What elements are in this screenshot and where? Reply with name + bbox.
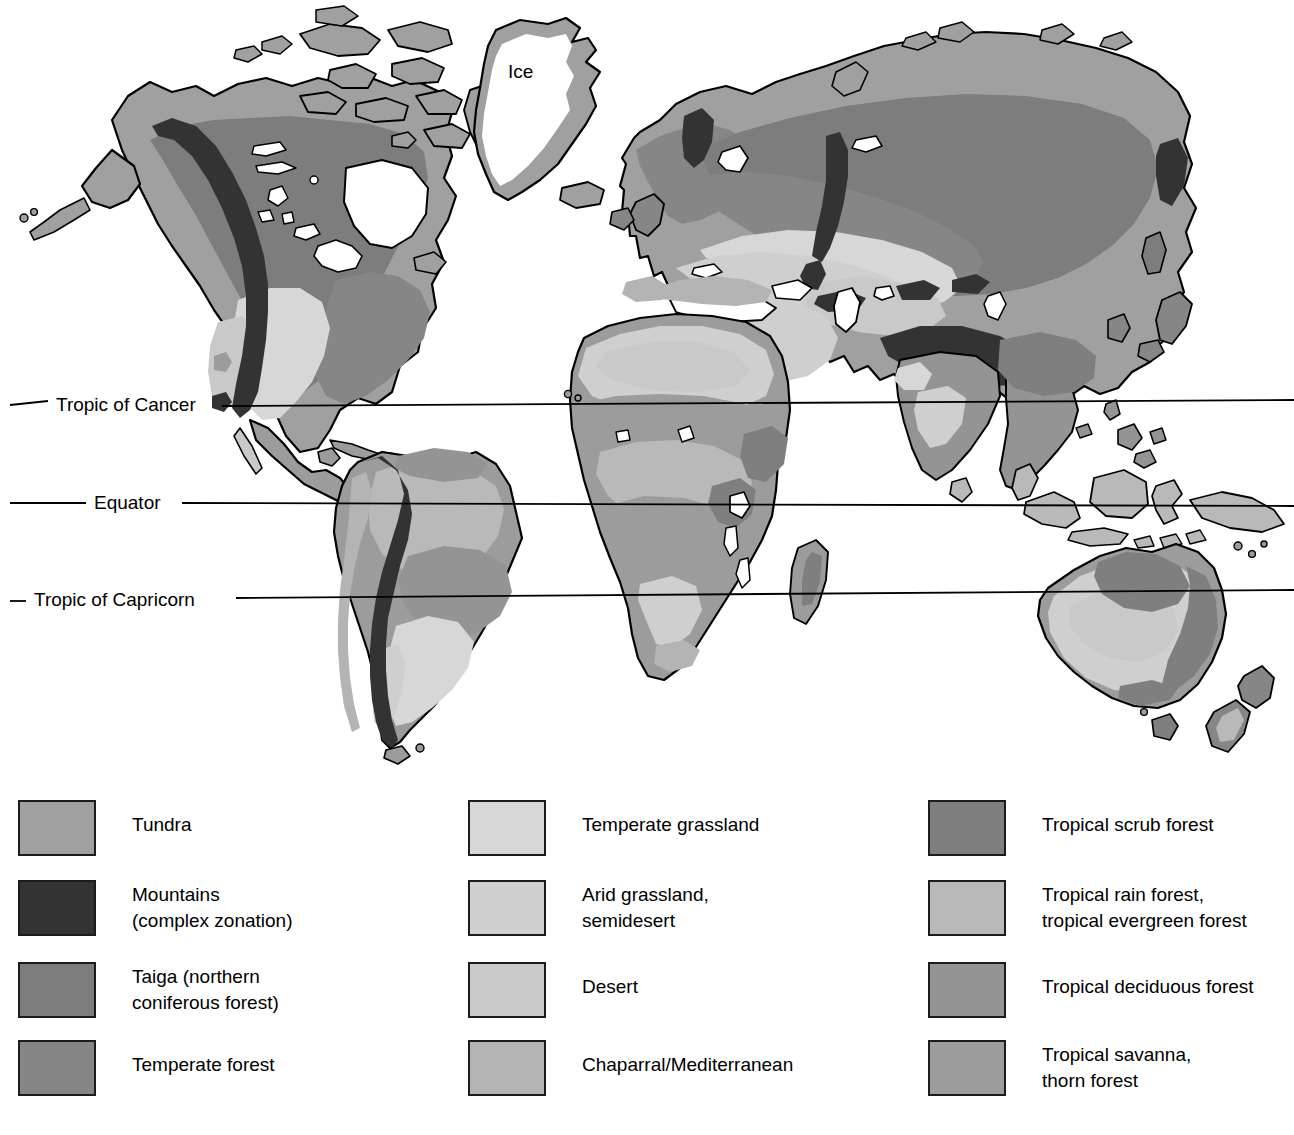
legend-label-mountains: Mountains (complex zonation) xyxy=(132,880,293,934)
ice-label: Ice xyxy=(508,61,533,83)
legend-item-tundra[interactable]: Tundra xyxy=(18,800,448,856)
biome-legend: Tundra Mountains (complex zonation) Taig… xyxy=(0,786,1294,1135)
canary-islet-1 xyxy=(564,390,571,397)
legend-item-tropical-rain-forest[interactable]: Tropical rain forest, tropical evergreen… xyxy=(928,880,1294,936)
legend-swatch-tropical-scrub-forest xyxy=(928,800,1006,856)
legend-label-taiga: Taiga (northern coniferous forest) xyxy=(132,962,279,1016)
legend-label-chaparral: Chaparral/Mediterranean xyxy=(582,1040,793,1078)
legend-label-tropical-deciduous-forest: Tropical deciduous forest xyxy=(1042,962,1254,1000)
legend-item-tropical-deciduous-forest[interactable]: Tropical deciduous forest xyxy=(928,962,1294,1018)
legend-item-arid-grassland[interactable]: Arid grassland, semidesert xyxy=(468,880,898,936)
legend-label-arid-grassland: Arid grassland, semidesert xyxy=(582,880,709,934)
legend-label-tropical-rain-forest: Tropical rain forest, tropical evergreen… xyxy=(1042,880,1247,934)
world-biome-map: Tropic of Cancer Equator Tropic of Capri… xyxy=(0,0,1294,780)
legend-label-tundra: Tundra xyxy=(132,800,192,838)
niger-lake xyxy=(616,430,630,442)
bass-islet xyxy=(1141,709,1148,716)
tropic-of-cancer-label: Tropic of Cancer xyxy=(50,395,202,415)
legend-swatch-tropical-deciduous-forest xyxy=(928,962,1006,1018)
canary-islet-2 xyxy=(575,395,581,401)
legend-swatch-desert xyxy=(468,962,546,1018)
legend-swatch-tundra xyxy=(18,800,96,856)
legend-item-chaparral[interactable]: Chaparral/Mediterranean xyxy=(468,1040,898,1096)
legend-item-desert[interactable]: Desert xyxy=(468,962,898,1018)
lake-small-b xyxy=(282,212,294,224)
tropic-of-capricorn-label: Tropic of Capricorn xyxy=(28,590,201,610)
legend-swatch-chaparral xyxy=(468,1040,546,1096)
world-biomes-figure: Tropic of Cancer Equator Tropic of Capri… xyxy=(0,0,1294,1135)
legend-swatch-tropical-rain-forest xyxy=(928,880,1006,936)
legend-swatch-arid-grassland xyxy=(468,880,546,936)
legend-label-temperate-forest: Temperate forest xyxy=(132,1040,275,1078)
pacific-islet-3 xyxy=(1261,541,1267,547)
legend-swatch-temperate-forest xyxy=(18,1040,96,1096)
equator-label: Equator xyxy=(88,493,167,513)
legend-label-tropical-savanna: Tropical savanna, thorn forest xyxy=(1042,1040,1191,1094)
legend-label-desert: Desert xyxy=(582,962,638,1000)
lake-islet xyxy=(310,176,318,184)
legend-label-temperate-grassland: Temperate grassland xyxy=(582,800,759,838)
legend-swatch-temperate-grassland xyxy=(468,800,546,856)
pacific-islet-2 xyxy=(1249,551,1256,558)
legend-item-temperate-forest[interactable]: Temperate forest xyxy=(18,1040,448,1096)
legend-swatch-tropical-savanna xyxy=(928,1040,1006,1096)
aleutian-islet-1 xyxy=(20,214,28,222)
pacific-islet-1 xyxy=(1234,542,1242,550)
legend-label-tropical-scrub-forest: Tropical scrub forest xyxy=(1042,800,1213,838)
legend-item-tropical-scrub-forest[interactable]: Tropical scrub forest xyxy=(928,800,1294,856)
falkland-islet xyxy=(416,744,424,752)
legend-swatch-mountains xyxy=(18,880,96,936)
legend-swatch-taiga xyxy=(18,962,96,1018)
aleutian-islet-2 xyxy=(31,209,38,216)
legend-item-tropical-savanna[interactable]: Tropical savanna, thorn forest xyxy=(928,1040,1294,1096)
legend-item-temperate-grassland[interactable]: Temperate grassland xyxy=(468,800,898,856)
legend-item-taiga[interactable]: Taiga (northern coniferous forest) xyxy=(18,962,448,1018)
legend-item-mountains[interactable]: Mountains (complex zonation) xyxy=(18,880,448,936)
